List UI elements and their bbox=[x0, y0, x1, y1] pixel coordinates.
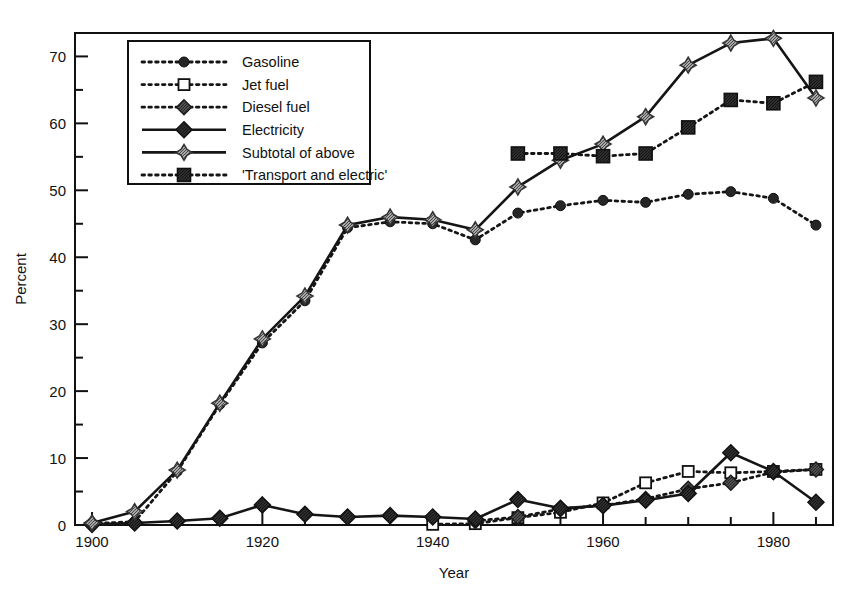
y-axis-tick-labels: 010203040506070 bbox=[49, 48, 66, 534]
data-point-filled-circle bbox=[598, 195, 608, 205]
data-point-open-square bbox=[683, 466, 694, 477]
y-tick-label: 0 bbox=[58, 517, 66, 534]
y-tick-label: 30 bbox=[49, 316, 66, 333]
y-tick-label: 70 bbox=[49, 48, 66, 65]
data-point-filled-circle bbox=[513, 208, 523, 218]
data-point-filled-circle bbox=[641, 197, 651, 207]
legend-item-label: Subtotal of above bbox=[242, 145, 355, 161]
y-tick-label: 20 bbox=[49, 383, 66, 400]
data-point-dark-square bbox=[724, 93, 737, 106]
data-point-dark-square bbox=[639, 147, 652, 160]
legend-item-label: Jet fuel bbox=[242, 77, 289, 93]
y-tick-label: 10 bbox=[49, 450, 66, 467]
legend-item-transport-and-electric[interactable]: 'Transport and electric' bbox=[142, 167, 387, 183]
x-axis-title: Year bbox=[439, 564, 469, 581]
chart-figure: 010203040506070 19001920194019601980 Per… bbox=[0, 0, 857, 591]
data-point-filled-circle bbox=[726, 187, 736, 197]
x-tick-label: 1940 bbox=[416, 533, 449, 550]
data-point-filled-circle bbox=[683, 189, 693, 199]
y-axis-title: Percent bbox=[12, 252, 29, 305]
data-point-dark-square bbox=[178, 169, 191, 182]
chart-legend: GasolineJet fuelDiesel fuelElectricitySu… bbox=[128, 41, 387, 184]
y-tick-label: 40 bbox=[49, 249, 66, 266]
x-axis-tick-labels: 19001920194019601980 bbox=[75, 533, 790, 550]
x-tick-label: 1900 bbox=[75, 533, 108, 550]
data-point-dark-square bbox=[511, 147, 524, 160]
legend-item-label: Diesel fuel bbox=[242, 99, 310, 115]
x-tick-label: 1980 bbox=[757, 533, 790, 550]
data-point-filled-circle bbox=[179, 57, 189, 67]
legend-item-label: Gasoline bbox=[242, 54, 299, 70]
y-tick-label: 60 bbox=[49, 115, 66, 132]
data-point-dark-square bbox=[767, 97, 780, 110]
data-point-dark-square bbox=[597, 150, 610, 163]
data-point-dark-square bbox=[682, 121, 695, 134]
y-tick-label: 50 bbox=[49, 182, 66, 199]
data-point-filled-circle bbox=[811, 220, 821, 230]
data-point-open-square bbox=[179, 79, 190, 90]
data-point-dark-square bbox=[554, 147, 567, 160]
line-chart-svg: 010203040506070 19001920194019601980 Per… bbox=[0, 0, 857, 591]
data-point-open-square bbox=[640, 477, 651, 488]
data-point-dark-square bbox=[809, 75, 822, 88]
chart-page: 010203040506070 19001920194019601980 Per… bbox=[0, 0, 857, 591]
legend-item-label: Electricity bbox=[242, 122, 305, 138]
legend-item-label: 'Transport and electric' bbox=[242, 167, 387, 183]
data-point-filled-circle bbox=[555, 201, 565, 211]
data-point-filled-circle bbox=[768, 193, 778, 203]
x-tick-label: 1920 bbox=[246, 533, 279, 550]
x-tick-label: 1960 bbox=[586, 533, 619, 550]
